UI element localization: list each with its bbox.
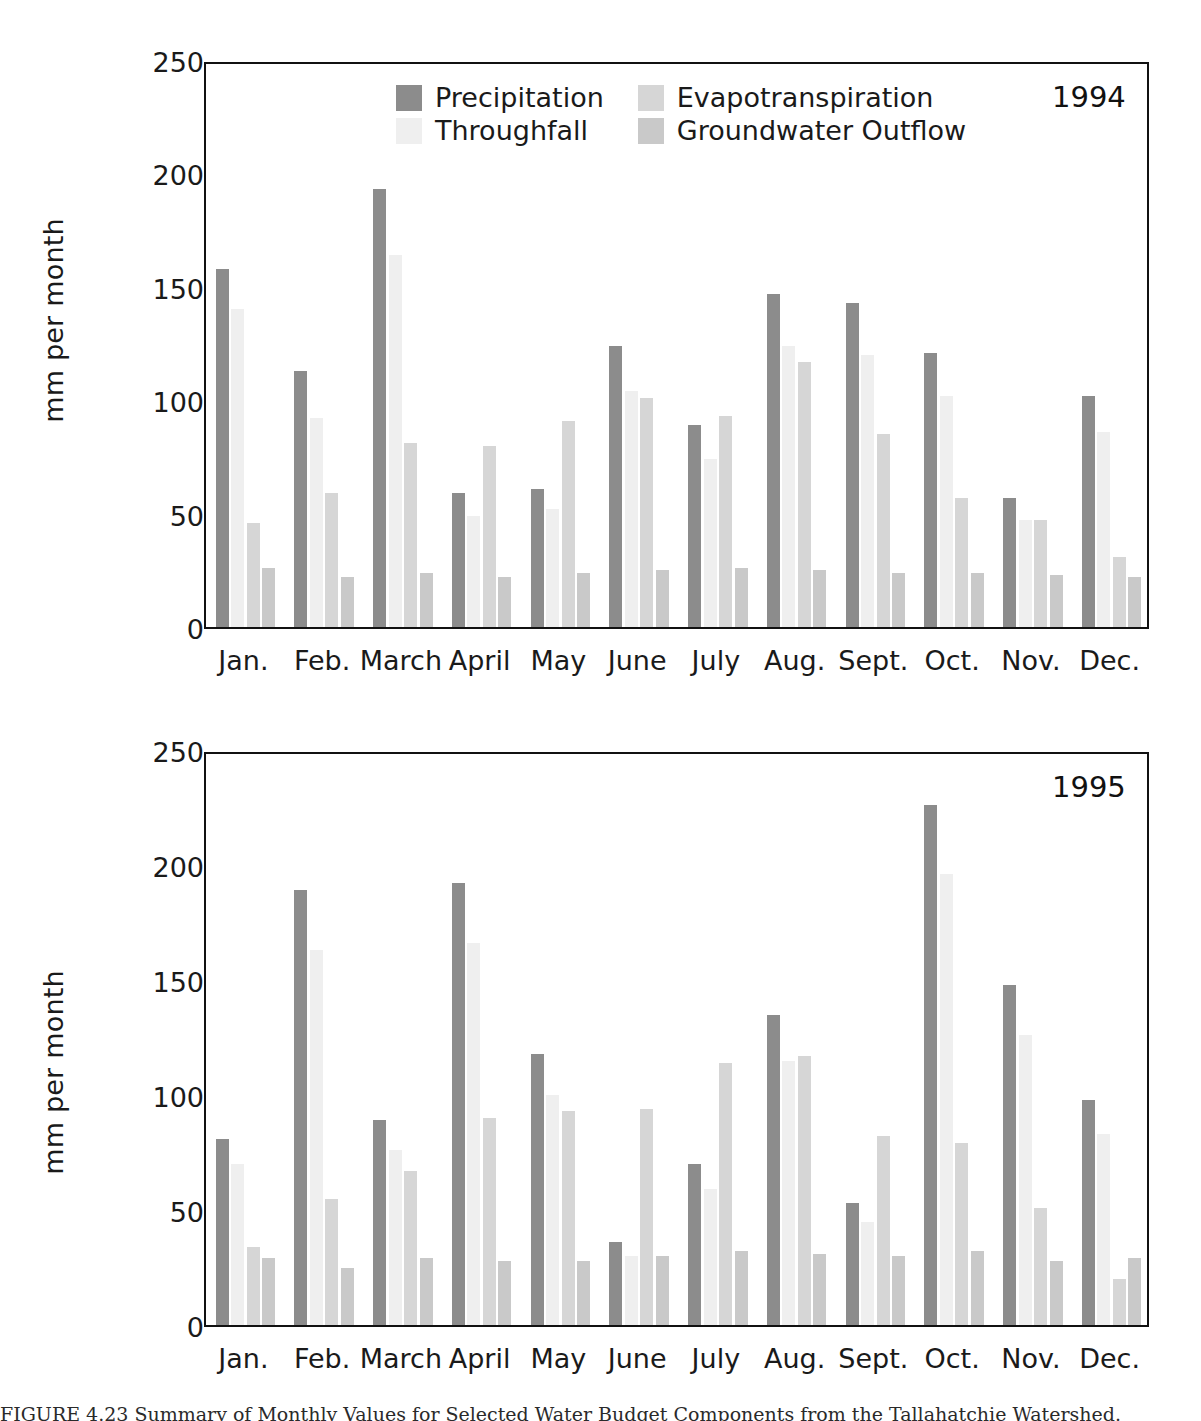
bar-groundwater-outflow-dec xyxy=(1128,577,1141,627)
bar-precipitation-oct xyxy=(924,353,937,627)
plot-area-1995 xyxy=(204,752,1149,1327)
bar-groundwater-outflow-july xyxy=(735,568,748,627)
bar-evapotranspiration-june xyxy=(640,1109,653,1325)
y-tick-100: 100 xyxy=(152,1084,204,1111)
bar-evapotranspiration-march xyxy=(404,1171,417,1325)
bar-groundwater-outflow-jan xyxy=(262,568,275,627)
bar-throughfall-sept xyxy=(861,355,874,627)
bar-group-march xyxy=(373,64,433,627)
bar-group-nov xyxy=(1003,754,1063,1325)
bar-evapotranspiration-aug xyxy=(798,362,811,627)
bar-throughfall-july xyxy=(704,1189,717,1325)
x-tick-july: July xyxy=(692,647,741,674)
bar-throughfall-oct xyxy=(940,874,953,1325)
bar-group-sept xyxy=(846,754,906,1325)
year-label-1995: 1995 xyxy=(1052,773,1126,802)
bar-groundwater-outflow-jan xyxy=(262,1258,275,1325)
bar-precipitation-july xyxy=(688,425,701,627)
bar-precipitation-aug xyxy=(767,1015,780,1326)
bar-throughfall-july xyxy=(704,459,717,627)
x-tick-july: July xyxy=(692,1345,741,1372)
bar-group-oct xyxy=(924,64,984,627)
bar-evapotranspiration-jan xyxy=(247,1247,260,1325)
bar-throughfall-april xyxy=(467,943,480,1325)
bar-evapotranspiration-oct xyxy=(955,498,968,627)
bar-groundwater-outflow-june xyxy=(656,1256,669,1325)
x-tick-jan: Jan. xyxy=(218,647,268,674)
year-label-1994: 1994 xyxy=(1052,83,1126,112)
bar-groups-1995 xyxy=(206,754,1147,1325)
y-tick-150: 150 xyxy=(152,969,204,996)
bar-group-feb xyxy=(294,64,354,627)
bar-precipitation-dec xyxy=(1082,1100,1095,1325)
legend-item-groundwater_outflow: Groundwater Outflow xyxy=(638,117,966,144)
bar-group-may xyxy=(531,64,591,627)
plot-area-1994 xyxy=(204,62,1149,629)
bar-throughfall-may xyxy=(546,1095,559,1325)
bar-groundwater-outflow-april xyxy=(498,577,511,627)
bar-evapotranspiration-feb xyxy=(325,1199,338,1326)
bar-groundwater-outflow-sept xyxy=(892,573,905,627)
bar-group-may xyxy=(531,754,591,1325)
legend-item-evapotranspiration: Evapotranspiration xyxy=(638,84,966,111)
water-budget-figure: mm per month 250200150100500 Precipitati… xyxy=(0,0,1201,1421)
bar-precipitation-feb xyxy=(294,890,307,1325)
x-tick-nov: Nov. xyxy=(1001,1345,1060,1372)
bar-throughfall-feb xyxy=(310,418,323,627)
bar-groundwater-outflow-may xyxy=(577,573,590,627)
y-tick-100: 100 xyxy=(152,389,204,416)
x-tick-june: June xyxy=(608,1345,667,1372)
bar-throughfall-dec xyxy=(1097,432,1110,627)
bar-throughfall-oct xyxy=(940,396,953,627)
y-tick-50: 50 xyxy=(170,502,204,529)
x-tick-may: May xyxy=(530,1345,586,1372)
bar-precipitation-jan xyxy=(216,1139,229,1325)
bar-evapotranspiration-nov xyxy=(1034,1208,1047,1325)
y-axis-tick-labels-1994: 250200150100500 xyxy=(118,0,204,669)
legend-item-throughfall: Throughfall xyxy=(396,117,604,144)
bar-precipitation-april xyxy=(452,883,465,1325)
bar-precipitation-may xyxy=(531,489,544,627)
bar-groundwater-outflow-oct xyxy=(971,573,984,627)
bar-throughfall-june xyxy=(625,1256,638,1325)
x-tick-aug: Aug. xyxy=(764,647,825,674)
bar-evapotranspiration-may xyxy=(562,1111,575,1325)
bar-evapotranspiration-nov xyxy=(1034,520,1047,627)
x-tick-june: June xyxy=(608,647,667,674)
y-tick-250: 250 xyxy=(152,739,204,766)
figure-caption: FIGURE 4.23 Summary of Monthly Values fo… xyxy=(0,1404,1201,1421)
x-tick-april: April xyxy=(449,1345,511,1372)
x-tick-feb: Feb. xyxy=(294,647,350,674)
bar-evapotranspiration-feb xyxy=(325,493,338,627)
bar-groundwater-outflow-feb xyxy=(341,577,354,627)
bar-precipitation-june xyxy=(609,1242,622,1325)
bar-precipitation-march xyxy=(373,1120,386,1325)
bar-group-april xyxy=(452,64,512,627)
y-axis-title-1994: mm per month xyxy=(30,0,76,640)
bar-throughfall-june xyxy=(625,391,638,627)
bar-evapotranspiration-june xyxy=(640,398,653,627)
bar-throughfall-aug xyxy=(782,1061,795,1326)
bar-precipitation-sept xyxy=(846,303,859,627)
bar-group-jan xyxy=(216,64,276,627)
bar-evapotranspiration-april xyxy=(483,1118,496,1325)
bar-groundwater-outflow-feb xyxy=(341,1268,354,1326)
bar-precipitation-jan xyxy=(216,269,229,627)
bar-evapotranspiration-aug xyxy=(798,1056,811,1325)
bar-precipitation-sept xyxy=(846,1203,859,1325)
bar-groundwater-outflow-april xyxy=(498,1261,511,1325)
x-tick-oct: Oct. xyxy=(924,1345,979,1372)
bar-evapotranspiration-jan xyxy=(247,523,260,627)
bar-groundwater-outflow-dec xyxy=(1128,1258,1141,1325)
legend-label-evapotranspiration: Evapotranspiration xyxy=(677,84,934,111)
bar-precipitation-april xyxy=(452,493,465,627)
bar-groundwater-outflow-july xyxy=(735,1251,748,1325)
bar-evapotranspiration-march xyxy=(404,443,417,627)
bar-precipitation-may xyxy=(531,1054,544,1325)
x-tick-feb: Feb. xyxy=(294,1345,350,1372)
chart-panel-1995: mm per month 250200150100500 1995 Jan.Fe… xyxy=(0,690,1201,1390)
x-tick-march: March xyxy=(360,647,442,674)
y-axis-tick-labels-1995: 250200150100500 xyxy=(118,690,204,1367)
bar-throughfall-aug xyxy=(782,346,795,627)
bar-evapotranspiration-dec xyxy=(1113,1279,1126,1325)
